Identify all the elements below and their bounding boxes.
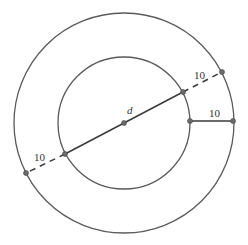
point-radial-outer	[231, 119, 236, 124]
label-radial: 10	[209, 107, 221, 119]
annulus-diagram: d 10 10 10	[0, 0, 248, 245]
point-inner-upper	[181, 90, 186, 95]
center-point	[122, 121, 127, 126]
point-outer-upper	[220, 70, 225, 75]
point-radial-inner	[188, 119, 193, 124]
label-dashed-lower: 10	[34, 151, 46, 163]
dashed-extension-lower	[26, 154, 65, 173]
label-dashed-upper: 10	[194, 69, 206, 81]
point-inner-lower	[63, 152, 68, 157]
center-label: d	[127, 104, 133, 116]
point-outer-lower	[24, 171, 29, 176]
